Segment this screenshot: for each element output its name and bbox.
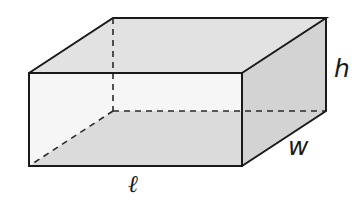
- label-length: ℓ: [128, 170, 138, 198]
- front-face: [29, 73, 242, 166]
- box-diagram: h w ℓ: [0, 0, 364, 209]
- label-height: h: [334, 54, 350, 83]
- label-width: w: [288, 132, 309, 161]
